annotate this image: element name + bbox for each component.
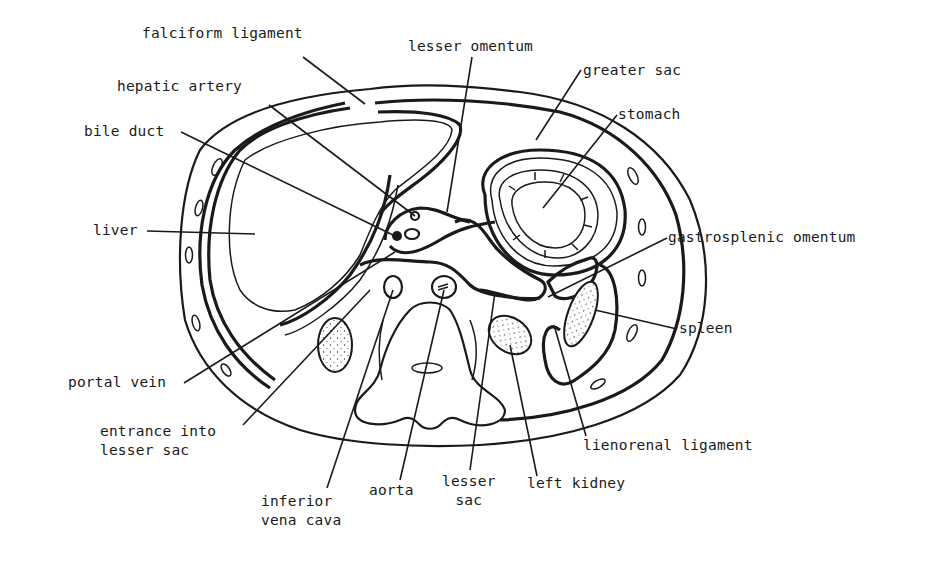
diagram-canvas: falciform ligament lesser omentum greate… — [0, 0, 943, 568]
label-bile-duct: bile duct — [84, 122, 164, 141]
label-aorta: aorta — [369, 481, 414, 500]
label-lesser-sac: lesser sac — [442, 472, 496, 510]
porta-hepatis — [385, 208, 495, 253]
label-spleen: spleen — [679, 319, 733, 338]
label-falciform-ligament: falciform ligament — [142, 24, 303, 43]
label-greater-sac: greater sac — [583, 61, 681, 80]
label-hepatic-artery: hepatic artery — [117, 77, 242, 96]
inferior-vena-cava-vessel — [384, 276, 402, 298]
portal-vein-vessel — [405, 229, 419, 239]
label-gastrosplenic-omentum: gastrosplenic omentum — [668, 228, 856, 247]
label-inferior-vena-cava: inferior vena cava — [261, 492, 341, 530]
label-left-kidney: left kidney — [527, 474, 625, 493]
label-liver: liver — [93, 221, 138, 240]
left-kidney-shape — [481, 308, 538, 362]
label-portal-vein: portal vein — [68, 373, 166, 392]
liver-shape — [229, 112, 460, 335]
aorta-vessel — [432, 276, 456, 298]
label-entrance-into-lesser-sac: entrance into lesser sac — [100, 422, 216, 460]
label-lesser-omentum: lesser omentum — [408, 37, 533, 56]
vertebra — [355, 303, 505, 429]
label-stomach: stomach — [618, 105, 681, 124]
label-lienorenal-ligament: lienorenal ligament — [583, 436, 753, 455]
